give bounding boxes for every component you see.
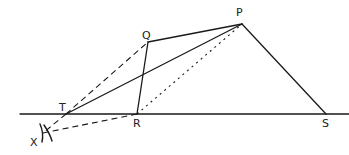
label-t: T bbox=[58, 101, 66, 114]
label-p: P bbox=[236, 6, 243, 19]
label-s: S bbox=[322, 117, 329, 130]
segment-rx bbox=[43, 114, 137, 133]
geometry-construction-diagram: P Q R S T X bbox=[0, 0, 349, 155]
label-r: R bbox=[133, 117, 141, 130]
segment-qr bbox=[137, 42, 148, 114]
segments-group bbox=[43, 24, 326, 133]
label-x: X bbox=[30, 136, 38, 149]
label-q: Q bbox=[142, 29, 151, 42]
segment-ps bbox=[242, 24, 326, 114]
segment-tp bbox=[66, 24, 242, 114]
segment-qp bbox=[148, 24, 242, 42]
point-labels-group: P Q R S T X bbox=[30, 6, 329, 149]
